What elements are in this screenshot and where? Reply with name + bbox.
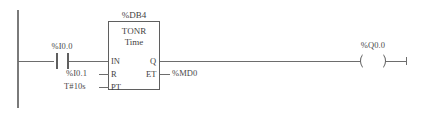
operand-pt[interactable]: T#10s (64, 82, 86, 91)
rung-wire-contact-to-block (69, 61, 109, 62)
coil-arc-right (372, 52, 386, 70)
operand-et[interactable]: %MD0 (172, 69, 197, 78)
wire-pt-input (99, 87, 109, 88)
wire-et-output (160, 74, 170, 75)
pin-q-label: Q (150, 57, 156, 66)
pin-in-label: IN (111, 57, 120, 66)
operand-r[interactable]: %I0.1 (66, 69, 87, 78)
function-block-datatype: Time (108, 37, 160, 48)
rung-wire-rail-to-contact (18, 61, 54, 62)
power-rail (17, 10, 19, 108)
rung-wire-block-to-coil (160, 61, 360, 62)
rung-wire-coil-to-end (386, 61, 407, 62)
ladder-diagram: %I0.0 %DB4 TONR Time IN R PT Q ET %I0.1 … (0, 0, 421, 117)
contact-bar-left (56, 53, 58, 69)
pin-et-label: ET (146, 70, 156, 79)
wire-r-input (99, 74, 109, 75)
function-block-name: TONR (108, 26, 160, 37)
rung-end-terminator (406, 57, 407, 65)
pin-r-label: R (111, 70, 117, 79)
function-block-instance-label: %DB4 (108, 10, 160, 21)
pin-pt-label: PT (111, 83, 121, 92)
coil-label: %Q0.0 (353, 41, 393, 50)
contact-label: %I0.0 (42, 42, 82, 51)
